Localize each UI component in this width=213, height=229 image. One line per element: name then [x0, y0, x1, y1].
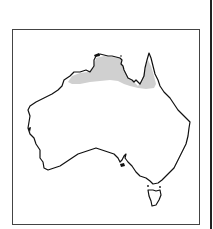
australia-map — [0, 0, 213, 229]
melville-island — [94, 53, 100, 57]
kangaroo-island — [120, 163, 125, 167]
island-dot — [159, 186, 161, 188]
island-dot — [147, 185, 149, 187]
island-dot — [120, 55, 122, 57]
tasmania-outline — [148, 190, 161, 206]
distribution-range — [68, 56, 156, 89]
